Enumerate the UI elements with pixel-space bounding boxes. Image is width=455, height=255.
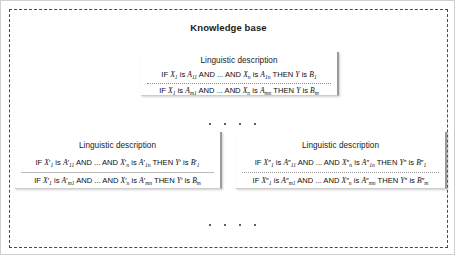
linguistic-description-card-right: Linguistic description IF X″1 is A″11 AN… xyxy=(236,132,447,189)
rule-row: IF X′1 is A′m1 AND ... AND X′n is A′mn T… xyxy=(15,173,220,190)
rule-row: IF X′1 is A′11 AND ... AND X′n is A′1n T… xyxy=(15,155,220,172)
linguistic-description-card-top: Linguistic description IF X1 is A11 AND … xyxy=(141,52,339,96)
vertical-ellipsis-middle xyxy=(209,123,256,125)
ellipsis-dot xyxy=(224,123,226,125)
rule-row: IF X″1 is A″m1 AND ... AND X″n is A″mn T… xyxy=(236,173,445,190)
ellipsis-dot xyxy=(224,224,226,226)
ellipsis-dot xyxy=(239,123,241,125)
card-title: Linguistic description xyxy=(236,132,445,155)
rule-row: IF X″1 is A″11 AND ... AND X″n is A″1n T… xyxy=(236,155,445,172)
knowledge-base-frame: Knowledge base Linguistic description IF… xyxy=(9,9,448,248)
knowledge-base-figure: Knowledge base Linguistic description IF… xyxy=(0,0,455,255)
linguistic-description-card-left: Linguistic description IF X′1 is A′11 AN… xyxy=(15,132,222,189)
ellipsis-dot xyxy=(254,123,256,125)
rule-row: IF X1 is A11 AND ... AND Xn is A1n THEN … xyxy=(141,68,337,83)
knowledge-base-title: Knowledge base xyxy=(10,22,447,33)
rule-row: IF X1 is Am1 AND ... AND Xn is Amn THEN … xyxy=(141,84,337,99)
card-title: Linguistic description xyxy=(141,52,337,68)
ellipsis-dot xyxy=(239,224,241,226)
ellipsis-dot xyxy=(254,224,256,226)
ellipsis-dot xyxy=(209,123,211,125)
vertical-ellipsis-bottom xyxy=(209,224,256,226)
ellipsis-dot xyxy=(209,224,211,226)
card-title: Linguistic description xyxy=(15,132,220,155)
